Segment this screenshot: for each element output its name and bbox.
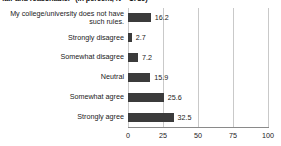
category-label: Strongly disagree — [0, 34, 128, 42]
bar-value-label: 2.7 — [136, 33, 146, 42]
x-tick-label-100: 100 — [262, 131, 274, 140]
bar-container: 15.9 — [128, 68, 281, 88]
bar-container: 7.2 — [128, 48, 281, 68]
bar — [128, 33, 132, 42]
category-label: Strongly agree — [0, 113, 128, 121]
bar-value-label: 25.6 — [168, 93, 182, 102]
bar-container: 25.6 — [128, 87, 281, 107]
x-axis-tick-labels: 0255075100 — [0, 131, 281, 143]
bar-value-label: 15.9 — [154, 73, 168, 82]
bar — [128, 13, 151, 22]
bar — [128, 53, 138, 62]
x-tick-label-75: 75 — [229, 131, 237, 140]
category-label: Somewhat disagree — [0, 53, 128, 61]
x-axis-line — [128, 127, 269, 128]
x-tick-label-25: 25 — [159, 131, 167, 140]
bar-container: 32.5 — [128, 107, 281, 127]
bar-row: Strongly disagree2.7 — [0, 28, 281, 48]
bar-row: Neutral15.9 — [0, 68, 281, 88]
bar — [128, 93, 164, 102]
bar-row: Somewhat disagree7.2 — [0, 48, 281, 68]
category-label: Neutral — [0, 73, 128, 81]
category-label: My college/university does not have such… — [0, 10, 128, 27]
bar-container: 2.7 — [128, 28, 281, 48]
bar-container: 16.2 — [128, 8, 281, 28]
bar-value-label: 16.2 — [155, 13, 169, 22]
x-tick-label-50: 50 — [194, 131, 202, 140]
bar-row: Strongly agree32.5 — [0, 107, 281, 127]
bar-value-label: 32.5 — [178, 113, 192, 122]
bar-row: My college/university does not have such… — [0, 8, 281, 28]
chart-title: fair and reasonable." (in percent, N = 1… — [2, 0, 279, 3]
bar — [128, 113, 174, 122]
bar-value-label: 7.2 — [142, 53, 152, 62]
category-label: Somewhat agree — [0, 93, 128, 101]
x-tick-label-0: 0 — [126, 131, 130, 140]
bar-rows: My college/university does not have such… — [0, 8, 281, 127]
bar-row: Somewhat agree25.6 — [0, 87, 281, 107]
bar-chart-figure: fair and reasonable." (in percent, N = 1… — [0, 0, 281, 146]
bar — [128, 73, 150, 82]
